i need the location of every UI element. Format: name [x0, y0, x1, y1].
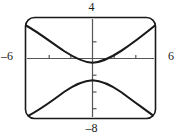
calculator-graph-screenshot: 4 –8 –6 6: [0, 0, 183, 138]
x-min-label: –6: [1, 50, 13, 62]
y-min-label: –8: [0, 122, 183, 134]
graphing-calculator-screen: [0, 0, 183, 138]
x-max-label: 6: [168, 50, 174, 62]
y-max-label: 4: [0, 1, 183, 13]
